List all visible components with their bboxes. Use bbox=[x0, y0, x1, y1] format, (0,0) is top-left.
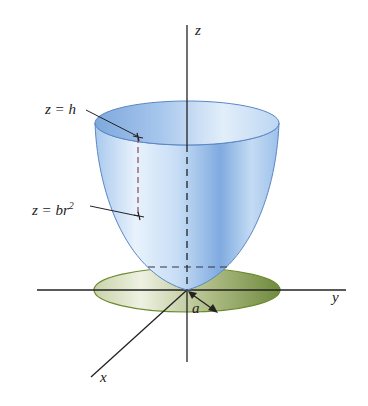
surface-equation-base: z = br bbox=[31, 202, 69, 218]
paraboloid-diagram: z y x a z = h z = br2 bbox=[0, 0, 368, 406]
top-plane-label: z = h bbox=[44, 101, 76, 117]
radius-label: a bbox=[192, 300, 200, 316]
y-axis-label: y bbox=[330, 289, 339, 305]
surface-equation-label: z = br2 bbox=[31, 200, 74, 218]
surface-equation-exponent: 2 bbox=[69, 200, 74, 211]
x-axis-label: x bbox=[99, 369, 107, 385]
z-axis-label: z bbox=[194, 22, 201, 38]
